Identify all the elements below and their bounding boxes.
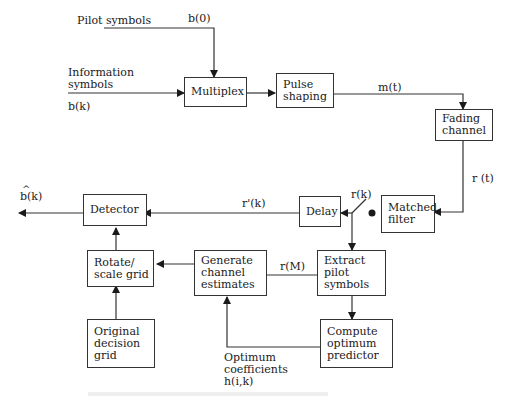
rM-label: r(M) (280, 261, 305, 273)
pulse-shaping-block: Pulse shaping (276, 73, 334, 108)
rk-label: r(k) (351, 189, 372, 201)
bk-label: b(k) (68, 101, 90, 113)
rprime-k-label: r'(k) (242, 198, 266, 210)
fading-channel-block: Fading channel (435, 109, 493, 141)
detector-block: Detector (83, 194, 147, 226)
original-decision-grid-block: Original decision grid (87, 319, 155, 368)
switch-contact-icon (369, 210, 376, 217)
delay-block: Delay (299, 196, 341, 227)
faint-caption (88, 392, 328, 396)
extract-pilot-symbols-block: Extract pilot symbols (317, 250, 386, 296)
rotate-scale-grid-block: Rotate/ scale grid (87, 250, 154, 287)
compute-optimum-predictor-block: Compute optimum predictor (320, 319, 393, 368)
rt-label: r (t) (472, 173, 494, 185)
information-label-line2: symbols (68, 79, 113, 91)
pilot-symbols-label: Pilot symbols (77, 15, 151, 27)
multiplex-block: Multiplex (184, 77, 247, 107)
generate-channel-estimates-block: Generate channel estimates (194, 250, 267, 296)
bhat-k-label: b(k) (20, 191, 42, 203)
mt-label: m(t) (378, 82, 401, 94)
optimum-coefficients-line3: h(i,k) (224, 376, 253, 388)
matched-filter-block: Matched filter (381, 195, 435, 233)
b0-label: b(0) (188, 13, 211, 25)
